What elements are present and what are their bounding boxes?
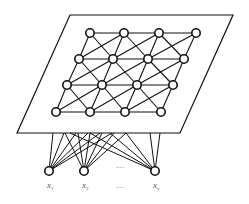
lattice-edges [56,33,196,112]
input-label-xn: xn [152,180,160,191]
lattice-edge [148,33,196,59]
input-node-x1 [45,167,53,175]
neuron-node [120,29,128,37]
neuron-node [180,55,188,63]
input-label-x1: x1 [46,180,54,191]
lattice-edge [79,33,124,59]
neuron-node [86,108,94,116]
input-node-xn [151,167,159,175]
lattice-edge [67,59,113,85]
lattice-edge [90,85,137,112]
neuron-node [75,55,83,63]
input-edge [49,133,76,171]
som-diagram: x1x2xn ··· ··· [0,0,249,204]
neuron-node [63,81,71,89]
ellipsis-labels: ··· [116,182,125,192]
neuron-node [109,55,117,63]
input-node-x2 [80,167,88,175]
input-edge [155,133,160,171]
input-labels: x1x2xn [46,180,160,191]
input-nodes [45,167,159,175]
neuron-node [121,108,129,116]
input-connections [49,133,160,171]
lattice-edge [137,59,184,85]
lattice-edge [56,85,102,112]
neuron-node [155,29,163,37]
ellipsis-inputs: ··· [116,162,125,172]
neuron-node [144,55,152,63]
neuron-node [86,29,94,37]
neuron-node [192,29,200,37]
neuron-node [169,81,177,89]
lattice-edge [125,85,173,112]
neuron-node [52,108,60,116]
neuron-node [133,81,141,89]
lattice-edge [102,59,148,85]
input-label-x2: x2 [81,180,89,191]
lattice-edge [113,33,159,59]
neuron-node [98,81,106,89]
neuron-node [157,108,165,116]
